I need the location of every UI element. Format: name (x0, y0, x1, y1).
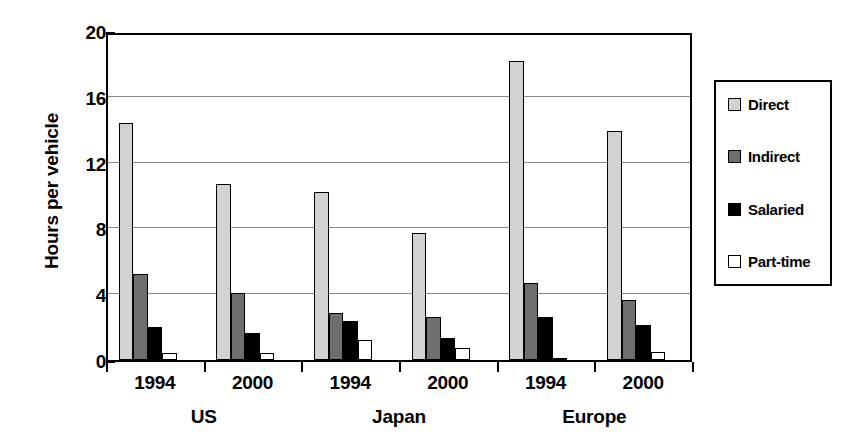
bar-part-time (358, 340, 373, 360)
legend-label: Part-time (748, 253, 810, 270)
legend-label: Direct (748, 96, 789, 113)
bar-group (108, 35, 206, 360)
group-label-us: US (191, 406, 217, 428)
bar-group (499, 35, 597, 360)
x-axis-group-labels: USJapanEurope (106, 406, 692, 434)
legend-label: Salaried (748, 201, 804, 218)
bar-direct (509, 61, 524, 360)
x-tick-mark (692, 362, 694, 372)
bar-direct (607, 131, 622, 360)
bar-salaried (538, 317, 553, 360)
x-tick-mark (497, 362, 499, 372)
bar-salaried (636, 325, 651, 360)
legend-item-direct[interactable]: Direct (728, 94, 830, 114)
bar-indirect (231, 293, 246, 360)
x-tick-label: 2000 (427, 372, 468, 394)
legend-swatch-direct-icon (728, 98, 741, 111)
x-tick-mark (594, 362, 596, 372)
bar-part-time (260, 353, 275, 360)
bar-salaried (343, 321, 358, 360)
legend-swatch-parttime-icon (728, 255, 741, 268)
y-axis-ticks: 048121620 (40, 33, 106, 362)
x-axis-labels: 199420001994200019942000 (106, 372, 692, 400)
bar-part-time (553, 358, 568, 360)
bar-chart: Hours per vehicle 048121620 199420001994… (0, 0, 849, 448)
bar-group (596, 35, 694, 360)
bar-part-time (455, 348, 470, 360)
y-tick-label: 16 (54, 88, 106, 110)
bar-salaried (245, 333, 260, 360)
bar-group (206, 35, 304, 360)
bar-indirect (622, 300, 637, 360)
bar-direct (412, 233, 427, 360)
bar-part-time (651, 352, 666, 360)
y-tick-label: 20 (54, 22, 106, 44)
plot-frame (106, 33, 692, 362)
bar-indirect (524, 283, 539, 360)
legend-label: Indirect (748, 148, 800, 165)
bar-direct (119, 123, 134, 360)
x-tick-label: 1994 (525, 372, 566, 394)
group-label-europe: Europe (562, 406, 626, 428)
y-tick-label: 0 (54, 351, 106, 373)
x-tick-mark (204, 362, 206, 372)
bar-group (401, 35, 499, 360)
x-tick-mark (301, 362, 303, 372)
legend-item-indirect[interactable]: Indirect (728, 147, 830, 167)
legend-item-salaried[interactable]: Salaried (728, 199, 830, 219)
y-tick-label: 8 (54, 219, 106, 241)
bar-direct (314, 192, 329, 360)
chart-legend: DirectIndirectSalariedPart-time (714, 80, 832, 286)
y-tick-label: 4 (54, 285, 106, 307)
bar-part-time (162, 353, 177, 360)
plot-area (108, 35, 690, 360)
bar-indirect (133, 274, 148, 360)
group-label-japan: Japan (372, 406, 426, 428)
bar-indirect (329, 313, 344, 360)
bar-group (303, 35, 401, 360)
legend-swatch-salaried-icon (728, 203, 741, 216)
bar-direct (216, 184, 231, 360)
x-tick-label: 2000 (623, 372, 664, 394)
bar-indirect (426, 317, 441, 360)
x-tick-label: 1994 (330, 372, 371, 394)
x-tick-label: 1994 (134, 372, 175, 394)
x-tick-label: 2000 (232, 372, 273, 394)
legend-item-part-time[interactable]: Part-time (728, 252, 830, 272)
legend-swatch-indirect-icon (728, 150, 741, 163)
y-tick-label: 12 (54, 154, 106, 176)
bar-salaried (148, 327, 163, 360)
bar-salaried (441, 338, 456, 360)
x-tick-mark (106, 362, 108, 372)
x-tick-mark (399, 362, 401, 372)
